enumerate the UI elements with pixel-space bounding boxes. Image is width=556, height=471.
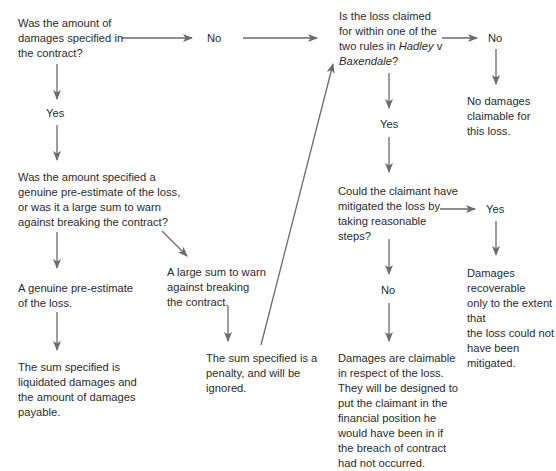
text-line: the loss could not <box>467 326 556 341</box>
text-line: steps? <box>338 229 458 244</box>
outcome-large-sum: A large sum to warn against breaking the… <box>167 265 266 310</box>
outcome-genuine-pre-estimate: A genuine pre-estimate of the loss. <box>18 281 133 311</box>
text-line: The sum specified is <box>18 360 137 375</box>
text-line: only to the extent that <box>467 296 556 326</box>
text-line: in respect of the loss. <box>338 366 458 381</box>
text-line: payable. <box>18 405 137 420</box>
text-line: liquidated damages and <box>18 375 137 390</box>
outcome-claimable: Damages are claimable in respect of the … <box>338 351 458 471</box>
label-no-hadley: No <box>488 31 502 45</box>
text-line: genuine pre-estimate of the loss, <box>18 185 180 200</box>
text-line: would have been in if <box>338 426 458 441</box>
text-line: against breaking the contract? <box>18 215 180 230</box>
text-line: They will be designed to <box>338 381 458 396</box>
arrow-penalty-to-hadley <box>261 64 333 345</box>
label-yes-hadley: Yes <box>380 117 398 131</box>
text-line: Damages recoverable <box>467 266 556 296</box>
text-line: claimable for <box>467 109 530 124</box>
label-no-specified: No <box>207 31 221 45</box>
label-no-mitigate: No <box>381 283 395 297</box>
text-line: or was it a large sum to warn <box>18 200 180 215</box>
text-line: against breaking <box>167 280 266 295</box>
text-line: financial position he <box>338 411 458 426</box>
question-damages-specified: Was the amount of damages specified in t… <box>18 16 123 61</box>
text-line: this loss. <box>467 124 530 139</box>
text-line: A large sum to warn <box>167 265 266 280</box>
text-line: Was the amount of <box>18 16 123 31</box>
question-mitigate: Could the claimant have mitigated the lo… <box>338 184 458 244</box>
arrow-to-large-sum <box>162 231 187 256</box>
text-line: put the claimant in the <box>338 396 458 411</box>
text-line: A genuine pre-estimate <box>18 281 133 296</box>
text-line: taking reasonable <box>338 214 458 229</box>
text-line: of the loss. <box>18 296 133 311</box>
text-line: Is the loss claimed <box>339 9 442 24</box>
text-line: ignored. <box>206 381 317 396</box>
question-hadley-v-baxendale: Is the loss claimed for within one of th… <box>339 9 442 69</box>
text-line: the contract? <box>18 46 123 61</box>
label-yes-mitigate: Yes <box>486 202 504 216</box>
text-line: damages specified in <box>18 31 123 46</box>
case-name-italic: Hadley <box>399 40 434 52</box>
outcome-penalty: The sum specified is a penalty, and will… <box>206 351 317 396</box>
text-line: penalty, and will be <box>206 366 317 381</box>
text-line: No damages <box>467 94 530 109</box>
text-fragment: ? <box>392 55 398 67</box>
text-line: Could the claimant have <box>338 184 458 199</box>
outcome-recoverable: Damages recoverable only to the extent t… <box>467 266 556 371</box>
case-name-italic: Baxendale <box>339 55 392 67</box>
outcome-liquidated-damages: The sum specified is liquidated damages … <box>18 360 137 420</box>
label-yes-specified: Yes <box>46 106 64 120</box>
outcome-no-damages: No damages claimable for this loss. <box>467 94 530 139</box>
text-fragment: v <box>434 40 443 52</box>
text-fragment: two rules in <box>339 40 399 52</box>
text-line: Damages are claimable <box>338 351 458 366</box>
text-line: had not occurred. <box>338 456 458 471</box>
text-line: two rules in Hadley v <box>339 39 442 54</box>
text-line: mitigated the loss by <box>338 199 458 214</box>
text-line: the amount of damages <box>18 390 137 405</box>
text-line: Baxendale? <box>339 54 442 69</box>
question-genuine-pre-estimate: Was the amount specified a genuine pre-e… <box>18 170 180 230</box>
text-line: have been mitigated. <box>467 341 556 371</box>
text-line: the contract. <box>167 295 266 310</box>
text-line: The sum specified is a <box>206 351 317 366</box>
text-line: Was the amount specified a <box>18 170 180 185</box>
text-line: for within one of the <box>339 24 442 39</box>
text-line: the breach of contract <box>338 441 458 456</box>
